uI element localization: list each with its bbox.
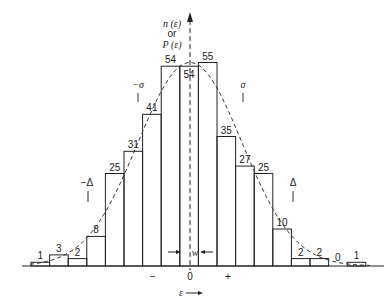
histogram-bar <box>236 166 255 266</box>
bar-value-label: 55 <box>202 51 214 62</box>
x-tick-zero: 0 <box>187 271 193 282</box>
bar-value-label: 54 <box>165 54 177 65</box>
y-label-line2: or <box>168 28 178 39</box>
histogram-bar <box>217 137 236 267</box>
histogram-bar <box>68 259 87 266</box>
x-axis-label: ε <box>179 287 183 298</box>
minus-delta-label: −Δ <box>81 177 94 188</box>
histogram-figure: 1328253141545455352725102201 n (ε) or P … <box>0 0 392 306</box>
histogram-chart: 1328253141545455352725102201 n (ε) or P … <box>0 0 392 306</box>
gaussian-curve <box>30 63 370 266</box>
histogram-bar <box>87 236 106 266</box>
bar-value-label: 41 <box>146 102 158 113</box>
delta-label: Δ <box>290 177 297 188</box>
histogram-bars <box>31 63 366 267</box>
bar-value-label: 54 <box>184 69 196 80</box>
minus-sigma-label: −σ <box>132 79 145 90</box>
x-axis-arrowhead-icon <box>198 291 203 295</box>
bar-value-label: 3 <box>56 243 62 254</box>
histogram-bar <box>124 151 143 266</box>
histogram-bar <box>161 66 180 266</box>
bar-value-label: 1 <box>354 250 360 261</box>
bar-value-label: 1 <box>38 250 44 261</box>
histogram-bar <box>254 174 273 267</box>
y-label-line3: P (ε) <box>161 39 182 51</box>
bin-width-label: w <box>192 247 199 258</box>
w-arrowhead-right-icon <box>200 250 205 254</box>
bar-value-label: 25 <box>258 162 270 173</box>
sigma-label: σ <box>241 79 247 90</box>
histogram-bar <box>273 229 292 266</box>
bar-value-label: 0 <box>335 252 341 263</box>
histogram-bar <box>291 259 310 266</box>
x-tick-plus: + <box>225 271 231 282</box>
histogram-bar <box>50 255 69 266</box>
histogram-bar <box>143 114 162 266</box>
bar-value-label: 25 <box>109 162 121 173</box>
x-tick-minus: − <box>150 271 156 282</box>
histogram-bar <box>198 63 217 267</box>
bar-value-label: 35 <box>221 125 233 136</box>
bar-value-label: 2 <box>317 247 323 258</box>
bar-value-label: 2 <box>75 247 81 258</box>
histogram-bar <box>180 66 199 266</box>
bar-value-label: 2 <box>298 247 304 258</box>
histogram-bar <box>105 174 124 267</box>
bar-value-label: 10 <box>277 217 289 228</box>
y-axis-arrowhead-icon <box>187 12 193 22</box>
